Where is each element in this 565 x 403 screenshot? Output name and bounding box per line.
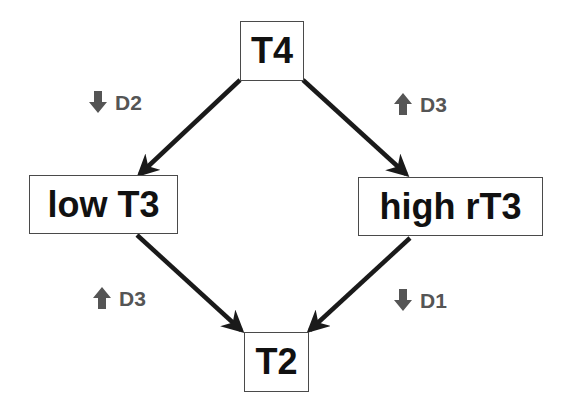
edge-label-d3-upper-text: D3 (420, 94, 447, 115)
down-arrow-icon (394, 289, 412, 311)
node-low-t3: low T3 (29, 175, 178, 234)
thyroid-hormone-diagram: T4 low T3 high rT3 T2 D2 D3 D3 D1 (0, 0, 565, 403)
edge-t4-to-low-t3 (140, 80, 240, 174)
up-arrow-icon (93, 287, 111, 309)
edge-label-d3-upper: D3 (394, 93, 447, 115)
edge-label-d2: D2 (89, 91, 142, 113)
node-low-t3-label: low T3 (47, 187, 159, 223)
edge-low-t3-to-t2 (137, 235, 241, 330)
node-t4-label: T4 (251, 33, 293, 69)
node-high-rt3-label: high rT3 (380, 189, 522, 225)
node-high-rt3: high rT3 (358, 177, 543, 236)
node-t2: T2 (244, 332, 309, 392)
node-t2-label: T2 (255, 344, 297, 380)
up-arrow-icon (394, 93, 412, 115)
edge-label-d2-text: D2 (115, 92, 142, 113)
edge-label-d1-text: D1 (420, 290, 447, 311)
edge-label-d3-lower-text: D3 (119, 288, 146, 309)
edge-high-rt3-to-t2 (310, 238, 410, 330)
edge-label-d1: D1 (394, 289, 447, 311)
node-t4: T4 (240, 21, 304, 81)
down-arrow-icon (89, 91, 107, 113)
edge-label-d3-lower: D3 (93, 287, 146, 309)
edge-t4-to-high-rt3 (303, 80, 406, 174)
